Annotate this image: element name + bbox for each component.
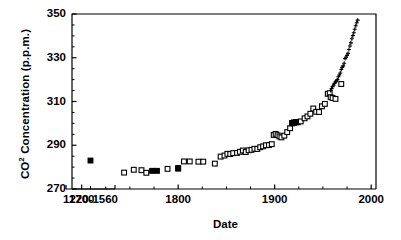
data-point-open-square	[322, 102, 327, 107]
data-point-open-square	[269, 142, 274, 147]
data-point-open-square	[212, 161, 217, 166]
data-point-open-square	[165, 166, 170, 171]
data-point-open-square	[288, 126, 293, 131]
data-point-open-square	[187, 159, 192, 164]
data-point-filled-square	[88, 158, 93, 163]
plot-frame	[72, 14, 376, 189]
data-point-open-square	[308, 111, 313, 116]
data-point-filled-square	[294, 120, 299, 125]
data-point-filled-square	[176, 166, 181, 171]
data-point-open-square	[122, 170, 127, 175]
data-point-open-square	[131, 167, 136, 172]
data-point-plus	[353, 27, 357, 31]
plot-area	[0, 0, 401, 240]
data-point-filled-square	[155, 168, 160, 173]
data-point-open-square	[317, 110, 322, 115]
data-point-open-square	[333, 96, 338, 101]
data-point-open-square	[182, 159, 187, 164]
data-point-plus	[347, 47, 351, 51]
data-point-filled-square	[150, 168, 155, 173]
data-point-open-square	[144, 170, 149, 175]
co2-concentration-chart: CO2 Concentration (p.p.m.) 2702903103303…	[0, 0, 401, 240]
data-point-open-square	[196, 159, 201, 164]
data-point-open-square	[339, 82, 344, 87]
data-point-open-square	[201, 159, 206, 164]
data-point-open-square	[139, 168, 144, 173]
